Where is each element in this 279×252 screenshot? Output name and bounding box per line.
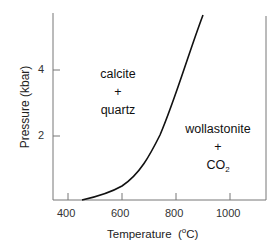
region-wollastonite-co2: wollastonite + CO2: [176, 120, 260, 179]
x-tick-label: 1000: [216, 207, 240, 219]
region-label-line: calcite: [90, 65, 146, 83]
y-tick-label: 2: [38, 129, 44, 141]
region-label-line: quartz: [90, 101, 146, 119]
x-axis-label: Temperature (oC): [107, 226, 198, 240]
y-tick-label: 4: [38, 63, 44, 75]
region-label-line: wollastonite: [176, 120, 260, 138]
region-label-line: +: [176, 138, 260, 156]
region-calcite-quartz: calcite + quartz: [90, 65, 146, 119]
x-axis-label-unit: C): [186, 228, 198, 240]
x-tick-label: 400: [57, 207, 75, 219]
co-text: CO: [206, 158, 225, 172]
region-label-line: +: [90, 83, 146, 101]
x-tick-label: 600: [111, 207, 129, 219]
y-axis-label: Pressure (kbar): [18, 52, 32, 162]
x-tick-label: 800: [165, 207, 183, 219]
subscript-2: 2: [225, 165, 229, 174]
x-axis-label-text: Temperature: [107, 228, 172, 240]
region-label-line: CO2: [176, 156, 260, 179]
